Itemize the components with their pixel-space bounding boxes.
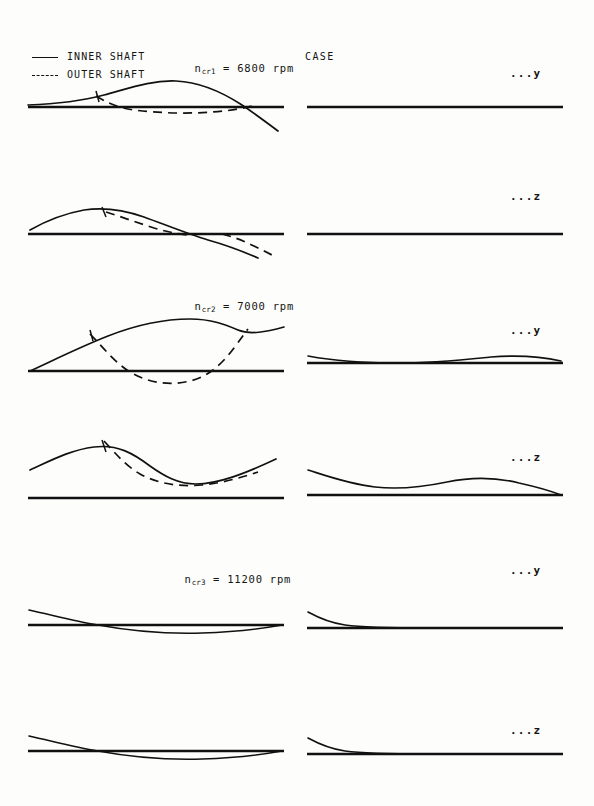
panel-mode1-z-case [305, 196, 567, 264]
panel-mode2-z-case [305, 456, 567, 502]
inner-shaft-curve-mode3-y [29, 610, 282, 633]
plane-label-mode3-y: ...y [510, 565, 541, 576]
legend-dashed-line-swatch [32, 75, 58, 76]
panel-mode3-z-case [305, 726, 567, 770]
panel-mode1-y-case [305, 78, 567, 138]
outer-shaft-curve-mode2-y [90, 329, 248, 383]
outer-shaft-curve-mode1-z-upper [106, 212, 188, 235]
panel-mode1-y-shaft [26, 78, 288, 138]
inner-shaft-curve-mode2-y [30, 319, 284, 371]
inner-shaft-curve-mode3-z [29, 736, 282, 759]
panel-mode2-y-case [305, 330, 567, 372]
outer-shaft-curve-mode1-z-lower [222, 234, 274, 256]
legend-inner-shaft: INNER SHAFT [32, 52, 145, 62]
ncr1-value: = 6800 rpm [216, 62, 294, 74]
case-curve-mode3-z [308, 738, 561, 754]
legend-solid-line-swatch [32, 57, 58, 58]
ncr1-subscript: cr1 [202, 67, 216, 76]
ncr3-value: = 11200 rpm [206, 573, 291, 585]
case-curve-mode2-z [308, 470, 561, 495]
figure-sheet: INNER SHAFT OUTER SHAFT ncr1 = 6800 rpm … [0, 0, 594, 806]
outer-shaft-curve-mode1-y [96, 96, 252, 113]
ncr3-subscript: cr3 [192, 578, 206, 587]
case-curve-mode3-y [308, 612, 561, 628]
panel-mode3-y-case [305, 600, 567, 644]
panel-mode2-y-shaft [26, 308, 288, 398]
panel-mode2-z-shaft [26, 428, 288, 508]
outer-shaft-curve-mode2-z [104, 441, 258, 486]
ncr1-symbol: n [195, 62, 202, 74]
panel-mode3-y-shaft [26, 596, 288, 644]
legend-inner-shaft-label: INNER SHAFT [67, 52, 145, 62]
panel-mode3-z-shaft [26, 722, 288, 770]
ncr3-symbol: n [185, 573, 192, 585]
panel-mode1-z-shaft [26, 196, 288, 264]
critical-speed-3-label: ncr3 = 11200 rpm [156, 563, 291, 597]
case-column-header: CASE [305, 52, 335, 62]
